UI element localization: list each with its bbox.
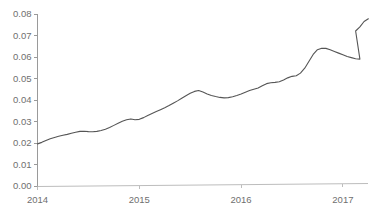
x-axis-line <box>38 184 369 187</box>
line-chart: 0.080.070.060.050.040.030.020.010.00 201… <box>0 0 370 213</box>
y-tick-label: 0.02 <box>13 137 32 148</box>
x-tick-label: 2017 <box>332 194 353 205</box>
y-tick-label: 0.01 <box>13 159 32 170</box>
data-series-line <box>38 19 369 144</box>
y-tick-label: 0.00 <box>13 180 32 191</box>
y-axis-ticks <box>34 14 38 186</box>
y-axis-tick-labels: 0.080.070.060.050.040.030.020.010.00 <box>13 8 32 191</box>
plot-area <box>38 19 369 144</box>
chart-canvas: 0.080.070.060.050.040.030.020.010.00 201… <box>0 0 370 213</box>
y-tick-label: 0.05 <box>13 73 32 84</box>
y-tick-label: 0.08 <box>13 8 32 19</box>
x-tick-label: 2014 <box>27 194 48 205</box>
x-tick-label: 2015 <box>129 194 150 205</box>
y-axis-group: 0.080.070.060.050.040.030.020.010.00 <box>13 8 38 191</box>
x-tick-label: 2016 <box>231 194 252 205</box>
y-tick-label: 0.07 <box>13 30 32 41</box>
x-axis-tick-labels: 2014201520162017 <box>27 194 354 205</box>
y-tick-label: 0.03 <box>13 116 32 127</box>
y-tick-label: 0.06 <box>13 51 32 62</box>
x-axis-group: 2014201520162017 <box>27 184 368 206</box>
y-tick-label: 0.04 <box>13 94 32 105</box>
